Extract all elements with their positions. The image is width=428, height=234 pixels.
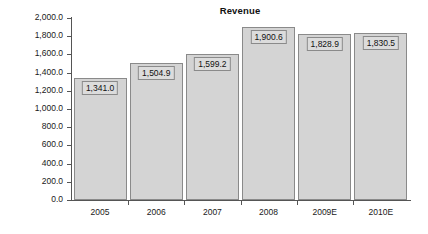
revenue-bar-chart: Revenue 0.0200.0400.0600.0800.01,000.01,… (0, 0, 428, 234)
bar-slot: 1,599.2 (186, 18, 239, 200)
y-axis: 0.0200.0400.0600.0800.01,000.01,200.01,4… (0, 0, 72, 234)
bar-value-label: 1,828.9 (307, 37, 343, 51)
y-axis-tick-label: 0.0 (51, 194, 63, 205)
y-axis-tick-label: 1,200.0 (35, 85, 63, 96)
bar-value-label: 1,599.2 (194, 57, 230, 71)
x-axis-label-2007: 2007 (184, 206, 240, 218)
bar-value-label: 1,504.9 (138, 66, 174, 80)
chart-title: Revenue (72, 5, 408, 16)
bar-2008[interactable] (242, 27, 295, 200)
bar-slot: 1,828.9 (298, 18, 351, 200)
y-axis-tick-label: 200.0 (42, 176, 63, 187)
x-axis-label-2006: 2006 (128, 206, 184, 218)
bar-2007[interactable] (186, 54, 239, 200)
bar-2006[interactable] (130, 63, 183, 200)
x-axis-label-2010E: 2010E (353, 206, 409, 218)
y-axis-tick-label: 1,000.0 (35, 103, 63, 114)
bar-value-label: 1,341.0 (82, 81, 118, 95)
y-axis-tick-label: 800.0 (42, 121, 63, 132)
x-axis-label-2009E: 2009E (297, 206, 353, 218)
y-axis-tick-label: 1,400.0 (35, 67, 63, 78)
bar-slot: 1,900.6 (242, 18, 295, 200)
bar-slot: 1,830.5 (354, 18, 407, 200)
x-axis-tick-mark (353, 201, 354, 205)
y-axis-tick-label: 1,800.0 (35, 30, 63, 41)
bar-2010E[interactable] (354, 33, 407, 200)
y-axis-tick-label: 1,600.0 (35, 48, 63, 59)
x-axis-tick-mark (241, 201, 242, 205)
bar-value-label: 1,830.5 (363, 36, 399, 50)
bar-2005[interactable] (74, 78, 127, 200)
y-axis-tick-label: 2,000.0 (35, 12, 63, 23)
bar-2009E[interactable] (298, 34, 351, 200)
bar-value-label: 1,900.6 (250, 30, 286, 44)
x-axis-tick-mark (297, 201, 298, 205)
y-axis-tick-label: 600.0 (42, 139, 63, 150)
x-axis-tick-mark (184, 201, 185, 205)
x-axis-label-2005: 2005 (72, 206, 128, 218)
x-axis-tick-mark (128, 201, 129, 205)
bar-slot: 1,341.0 (74, 18, 127, 200)
plot-area: 1,341.01,504.91,599.21,900.61,828.91,830… (72, 18, 409, 200)
y-axis-tick-label: 400.0 (42, 158, 63, 169)
x-axis-label-2008: 2008 (241, 206, 297, 218)
bar-slot: 1,504.9 (130, 18, 183, 200)
